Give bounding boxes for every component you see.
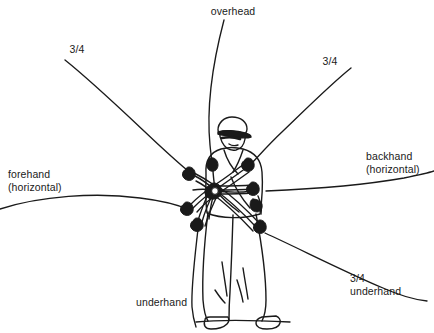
label-three-quarter-right: 3/4 (308, 55, 352, 68)
label-backhand-horizontal: backhand (horizontal) (366, 150, 434, 175)
label-three-quarter-left: 3/4 (55, 43, 99, 56)
label-overhead: overhead (188, 5, 278, 18)
hand-overhead (207, 158, 218, 171)
label-three-quarter-underhand: 3/4 underhand (350, 272, 432, 297)
hub-highlight (212, 188, 219, 195)
throwing-angle-diagram: overhead 3/4 3/4 forehand (horizontal) b… (0, 0, 434, 333)
label-forehand-horizontal: forehand (horizontal) (8, 168, 104, 193)
label-underhand: underhand (136, 296, 202, 309)
